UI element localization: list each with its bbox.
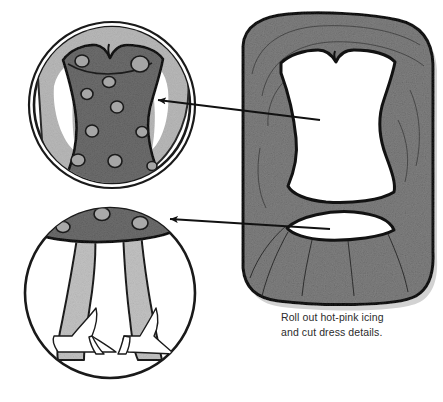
bodice-detail-circle [29, 22, 195, 188]
detail-dress-bodice [63, 44, 163, 186]
instructional-illustration [0, 0, 443, 402]
illustration-page: Roll out hot-pink icing and cut dress de… [0, 0, 443, 402]
bodice-cutout [281, 50, 395, 203]
rolled-icing-sheet [243, 13, 437, 311]
caption-text: Roll out hot-pink icing and cut dress de… [281, 310, 439, 340]
skirt-legs-detail-circle [25, 206, 195, 378]
